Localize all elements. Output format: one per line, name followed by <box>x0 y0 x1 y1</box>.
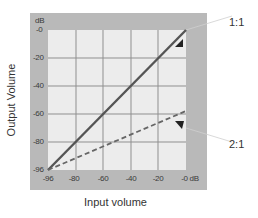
series-2to1-line <box>48 111 186 170</box>
ratio-label-2to1: 2:1 <box>229 138 244 150</box>
leader-line-2to1 <box>186 128 232 142</box>
leader-line-1to1 <box>186 16 232 30</box>
y-tick-40: -40 <box>33 82 44 90</box>
x-tick-20: -20 <box>153 175 164 183</box>
y-unit-label: dB <box>35 17 44 25</box>
x-tick-40: -40 <box>126 175 137 183</box>
y-tick-60: -60 <box>33 110 44 118</box>
x-tick-0: -0 dB <box>181 175 199 183</box>
ratio-label-1to1: 1:1 <box>229 16 244 28</box>
y-tick-0: -0 <box>36 26 43 34</box>
series-1to1-line <box>48 30 186 170</box>
y-tick-96: -96 <box>33 166 44 174</box>
x-tick-80: -80 <box>69 175 80 183</box>
y-axis-title: Output Volume <box>5 55 17 145</box>
y-tick-20: -20 <box>33 54 44 62</box>
triangle-marker-2to1 <box>175 121 184 129</box>
x-tick-96: -96 <box>43 175 54 183</box>
x-axis-title: Input volume <box>84 196 147 208</box>
x-tick-60: -60 <box>98 175 109 183</box>
y-tick-80: -80 <box>33 138 44 146</box>
